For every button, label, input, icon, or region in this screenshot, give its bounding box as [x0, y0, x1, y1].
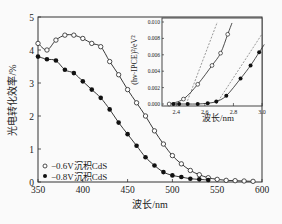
inset-y-tick-label: 0.006 [148, 52, 161, 58]
open-circle-marker [125, 87, 129, 91]
inset-filled-marker [196, 102, 200, 106]
filled-circle-marker [81, 79, 86, 84]
open-circle-marker [72, 33, 76, 37]
inset-filled-marker [171, 102, 175, 106]
inset-open-marker [182, 97, 186, 101]
filled-circle-marker [152, 163, 157, 168]
open-circle-marker [90, 41, 94, 45]
inset-plot: 2.42.62.83.00.0000.0020.0040.0060.0080.0… [148, 18, 266, 115]
open-circle-marker [63, 33, 67, 37]
inset-filled-marker [206, 101, 210, 105]
legend-filled-circle-icon [43, 174, 47, 178]
inset-filled-marker [214, 100, 218, 104]
filled-circle-marker [197, 177, 202, 182]
open-circle-marker [224, 178, 228, 182]
open-circle-marker [215, 177, 219, 181]
filled-circle-marker [54, 58, 59, 63]
inset-y-tick-label: 0.002 [148, 85, 161, 91]
filled-circle-marker [63, 68, 68, 73]
open-circle-marker [179, 162, 183, 166]
open-circle-marker [45, 48, 49, 52]
filled-circle-marker [98, 96, 103, 101]
inset-open-marker [210, 64, 214, 68]
inset-x-tick-label: 2.4 [173, 109, 181, 115]
x-tick-label: 600 [255, 185, 270, 195]
legend-open-circle-icon [43, 164, 47, 168]
open-circle-marker [197, 173, 201, 177]
ipce-chart: 350400450500550600012345 2.42.62.83.00.0… [0, 0, 282, 224]
filled-circle-marker [143, 155, 148, 160]
inset-y-tick-label: 0.000 [148, 101, 161, 107]
inset-y-axis-label: (hν·IPCE)²/eV² [130, 35, 139, 85]
inset-y-tick-label: 0.008 [148, 35, 161, 41]
filled-circle-marker [107, 107, 112, 112]
open-circle-marker [188, 168, 192, 172]
inset-open-marker [196, 82, 200, 86]
open-circle-marker [152, 129, 156, 133]
open-circle-marker [161, 142, 165, 146]
inset-open-marker [167, 102, 171, 106]
filled-circle-marker [125, 132, 130, 137]
open-circle-marker [242, 179, 246, 183]
open-circle-marker [170, 153, 174, 157]
filled-circle-marker [134, 143, 139, 148]
filled-circle-marker [206, 178, 211, 183]
y-tick-label: 5 [29, 13, 34, 23]
inset-filled-marker [224, 94, 228, 98]
inset-filled-marker [249, 63, 253, 67]
inset-filled-marker [186, 102, 190, 106]
inset-filled-marker [239, 77, 243, 81]
y-tick-label: 2 [29, 112, 34, 122]
x-axis-label: 波长/nm [132, 198, 168, 210]
x-tick-label: 550 [210, 185, 225, 195]
open-circle-marker [99, 45, 103, 49]
inset-x-tick-label: 3.0 [258, 109, 266, 115]
legend-label-filled: −0.8V沉积CdS [51, 171, 107, 182]
open-circle-marker [54, 38, 58, 42]
filled-circle-marker [45, 57, 50, 62]
inset-open-marker [226, 32, 230, 36]
open-circle-marker [251, 179, 255, 183]
filled-circle-marker [89, 87, 94, 92]
open-circle-marker [81, 36, 85, 40]
filled-circle-marker [161, 170, 166, 175]
y-tick-label: 0 [29, 178, 34, 188]
inset-open-marker [219, 51, 223, 55]
open-circle-marker [233, 178, 237, 182]
inset-y-tick-label: 0.010 [148, 19, 161, 25]
filled-circle-marker [179, 175, 184, 180]
y-axis-label: 光电转化效率/% [6, 64, 18, 135]
y-tick-label: 4 [29, 46, 34, 56]
inset-y-tick-label: 0.004 [148, 68, 161, 74]
inset-x-axis-label: 波长/nm [202, 112, 234, 123]
filled-circle-marker [116, 120, 121, 125]
filled-circle-marker [188, 176, 193, 181]
open-circle-marker [134, 101, 138, 105]
open-circle-marker [143, 114, 147, 118]
y-tick-label: 1 [29, 145, 34, 155]
inset-filled-marker [257, 50, 261, 54]
x-tick-label: 450 [120, 185, 135, 195]
filled-circle-marker [72, 71, 77, 76]
filled-circle-marker [36, 54, 41, 59]
legend-label-open: −0.6V沉积CdS [51, 160, 107, 171]
open-circle-marker [36, 41, 40, 45]
legend: −0.6V沉积CdS −0.8V沉积CdS [43, 160, 107, 182]
x-tick-label: 500 [165, 185, 180, 195]
open-circle-marker [107, 59, 111, 63]
chart-canvas: 350400450500550600012345 2.42.62.83.00.0… [0, 0, 282, 224]
filled-circle-marker [170, 173, 175, 178]
inset-filled-marker [177, 102, 181, 106]
open-circle-marker [116, 73, 120, 77]
x-tick-label: 400 [76, 185, 91, 195]
y-tick-label: 3 [29, 79, 34, 89]
